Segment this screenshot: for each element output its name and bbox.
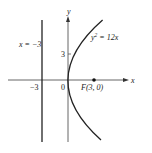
y-axis-arrow-icon <box>66 16 70 22</box>
directrix-label: x = −3 <box>18 40 41 49</box>
x-tick-neg3-label: −3 <box>30 83 39 92</box>
x-axis-arrow-icon <box>123 78 129 82</box>
parabola-diagram: y x 0 −3 3 x = −3 F(3, 0) y2 = 12x <box>0 0 152 153</box>
x-axis-label: x <box>130 76 135 85</box>
origin-label: 0 <box>61 83 65 92</box>
focus-label: F(3, 0) <box>80 83 104 92</box>
parabola-equation-label: y2 = 12x <box>90 32 119 42</box>
focus-point <box>92 78 96 82</box>
y-axis-label: y <box>66 7 71 16</box>
y-tick-3-label: 3 <box>61 50 65 59</box>
